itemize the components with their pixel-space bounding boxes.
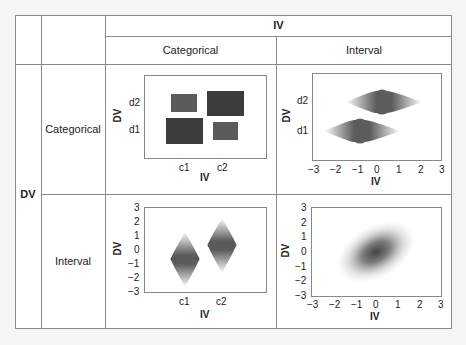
ytick: 2 (301, 217, 307, 228)
xtick: −3 (307, 299, 318, 310)
xtick: 0 (373, 299, 379, 310)
bivariate-density (0, 0, 466, 345)
ytick: 1 (301, 231, 307, 242)
xtick: 3 (438, 299, 444, 310)
y-axis-label: DV (280, 244, 291, 258)
ytick: −3 (295, 290, 306, 301)
xtick: 1 (395, 299, 401, 310)
ytick: −2 (295, 275, 306, 286)
xtick: −1 (351, 299, 362, 310)
x-axis-label: IV (370, 311, 379, 322)
ytick: −1 (295, 261, 306, 272)
xtick: −2 (329, 299, 340, 310)
ytick: 3 (301, 202, 307, 213)
ytick: 0 (301, 246, 307, 257)
xtick: 2 (417, 299, 423, 310)
